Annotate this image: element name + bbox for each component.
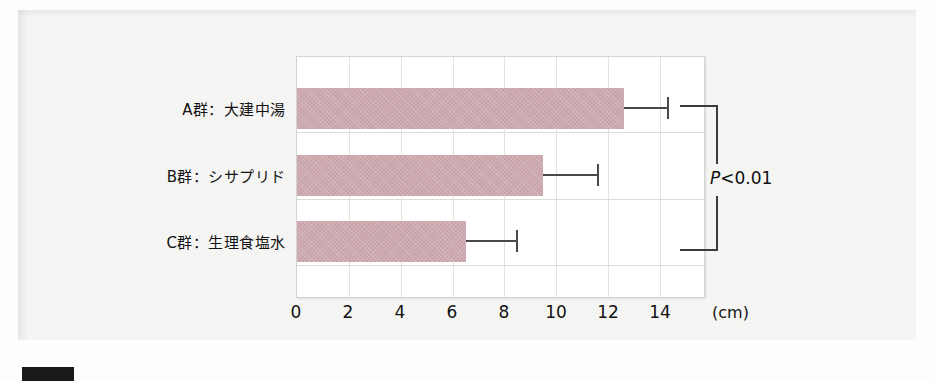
bar-group-c: [297, 221, 466, 262]
gridline-category-1: [297, 132, 704, 133]
bar-group-b: [297, 155, 543, 196]
x-tick-8: 8: [499, 302, 510, 322]
significance-label: P<0.01: [710, 168, 772, 188]
gridline-category-2: [297, 199, 704, 200]
x-tick-14: 14: [649, 302, 671, 322]
significance-bracket-spine-lower: [716, 196, 718, 251]
x-tick-4: 4: [395, 302, 406, 322]
error-bar-cap-group-c: [516, 230, 518, 252]
error-bar-line-group-b: [543, 174, 597, 176]
x-axis-unit-label: (cm): [712, 303, 749, 322]
page-shadow-top: [18, 10, 916, 18]
x-tick-6: 6: [447, 302, 458, 322]
significance-p-symbol: P: [710, 168, 720, 188]
figure-root: A群：大建中湯 B群：シサプリド C群：生理食塩水 0 2 4 6 8 10 1…: [0, 0, 934, 381]
category-label-group-a: A群：大建中湯: [182, 98, 286, 119]
page-shadow-left: [18, 10, 28, 340]
x-tick-12: 12: [597, 302, 619, 322]
significance-bracket-arm-bottom: [680, 249, 718, 251]
page-corner-tab: [22, 367, 74, 381]
significance-bracket-spine-upper: [716, 105, 718, 164]
category-label-group-b: B群：シサプリド: [167, 165, 286, 186]
error-bar-line-group-a: [624, 107, 668, 109]
x-tick-0: 0: [291, 302, 302, 322]
significance-bracket-arm-top: [680, 105, 718, 107]
error-bar-line-group-c: [466, 240, 518, 242]
gridline-category-3: [297, 265, 704, 266]
x-tick-10: 10: [545, 302, 567, 322]
gridline-x-14: [660, 57, 661, 297]
bar-group-a: [297, 88, 624, 129]
error-bar-cap-group-a: [667, 97, 669, 119]
significance-comparison: <0.01: [720, 168, 772, 188]
category-label-column: A群：大建中湯 B群：シサプリド C群：生理食塩水: [60, 56, 286, 298]
plot-area: [296, 56, 705, 298]
error-bar-cap-group-b: [597, 164, 599, 186]
x-tick-2: 2: [343, 302, 354, 322]
category-label-group-c: C群：生理食塩水: [167, 231, 286, 252]
